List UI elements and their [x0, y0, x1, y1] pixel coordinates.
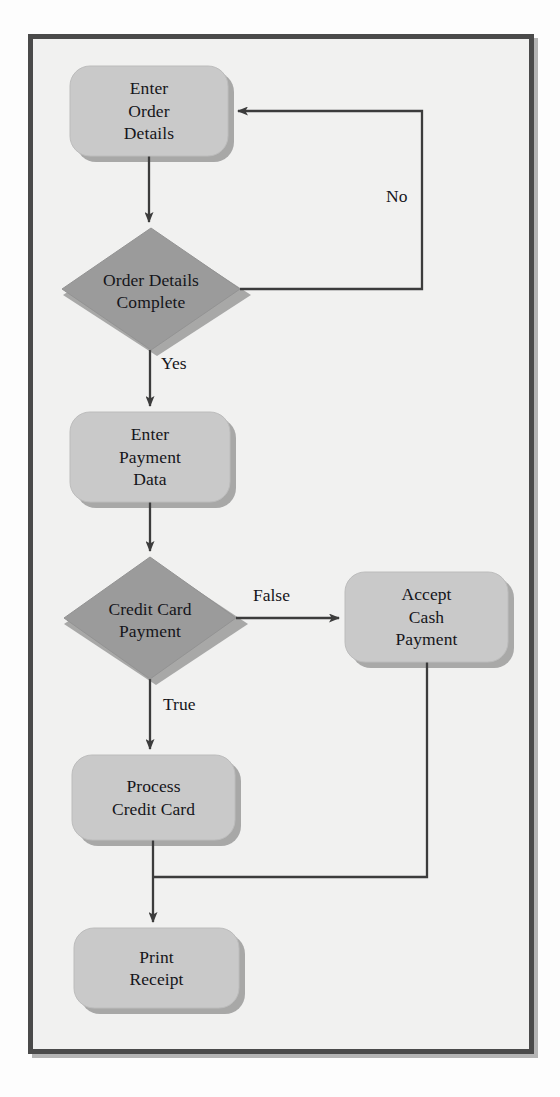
diagram-canvas: Enter Order Details Order Details Comple… — [0, 0, 560, 1097]
node-enter-payment-data — [70, 412, 230, 502]
edge-decision-no-loopback — [238, 111, 422, 289]
node-print-receipt — [74, 928, 239, 1008]
node-accept-cash-payment — [345, 572, 508, 662]
node-shapes — [62, 66, 508, 1008]
node-shadows — [63, 72, 514, 1014]
flowchart-graphics — [0, 0, 560, 1097]
node-order-details-complete — [62, 228, 240, 350]
node-credit-card-payment — [64, 557, 236, 679]
node-process-credit-card — [72, 755, 235, 840]
node-enter-order-details — [70, 66, 228, 156]
